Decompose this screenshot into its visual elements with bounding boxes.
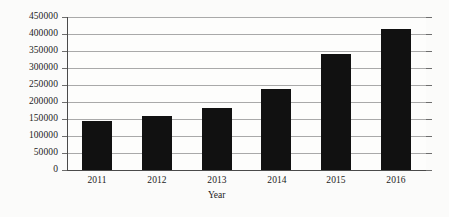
y-axis-tick-label: 450000: [0, 11, 58, 21]
right-axis-tick-mark: [426, 102, 432, 103]
x-axis-tick-label: 2013: [187, 175, 247, 185]
y-axis-tick-label: 300000: [0, 62, 58, 72]
gridline: [67, 17, 426, 18]
gridline: [67, 102, 426, 103]
gridline: [67, 68, 426, 69]
right-axis-tick-mark: [426, 85, 432, 86]
y-axis-tick-label: 200000: [0, 96, 58, 106]
y-axis-tick-label: 350000: [0, 45, 58, 55]
right-axis-tick-mark: [426, 68, 432, 69]
x-axis-line: [67, 170, 426, 171]
y-axis-tick-label: 150000: [0, 113, 58, 123]
y-axis-tick-label: 400000: [0, 28, 58, 38]
y-axis-line: [67, 17, 68, 171]
bar: [202, 108, 232, 170]
gridline: [67, 85, 426, 86]
right-axis-tick-mark: [426, 17, 432, 18]
bar: [381, 29, 411, 170]
right-axis-tick-mark: [426, 136, 432, 137]
x-axis-tick-label: 2016: [366, 175, 426, 185]
right-axis-tick-mark: [426, 170, 432, 171]
right-axis-tick-mark: [426, 153, 432, 154]
right-axis-tick-mark: [426, 34, 432, 35]
gridline: [67, 153, 426, 154]
y-axis-tick-label: 250000: [0, 79, 58, 89]
gridline: [67, 51, 426, 52]
right-axis-tick-mark: [426, 119, 432, 120]
x-axis-tick-label: 2012: [127, 175, 187, 185]
right-axis-tick-mark: [426, 51, 432, 52]
gridline: [67, 136, 426, 137]
y-axis-tick-label: 100000: [0, 130, 58, 140]
bar-chart: 0500001000001500002000002500003000003500…: [0, 0, 449, 217]
gridline: [67, 34, 426, 35]
bar: [321, 54, 351, 170]
bar: [261, 89, 291, 170]
x-axis-tick-label: 2015: [306, 175, 366, 185]
y-axis-tick-label: 50000: [0, 147, 58, 157]
bar: [142, 116, 172, 170]
y-axis-tick-label: 0: [0, 164, 58, 174]
plot-area-background: [67, 17, 426, 170]
gridline: [67, 119, 426, 120]
x-axis-title: Year: [187, 190, 247, 200]
x-axis-tick-label: 2011: [67, 175, 127, 185]
x-axis-tick-label: 2014: [247, 175, 307, 185]
bar: [82, 121, 112, 170]
